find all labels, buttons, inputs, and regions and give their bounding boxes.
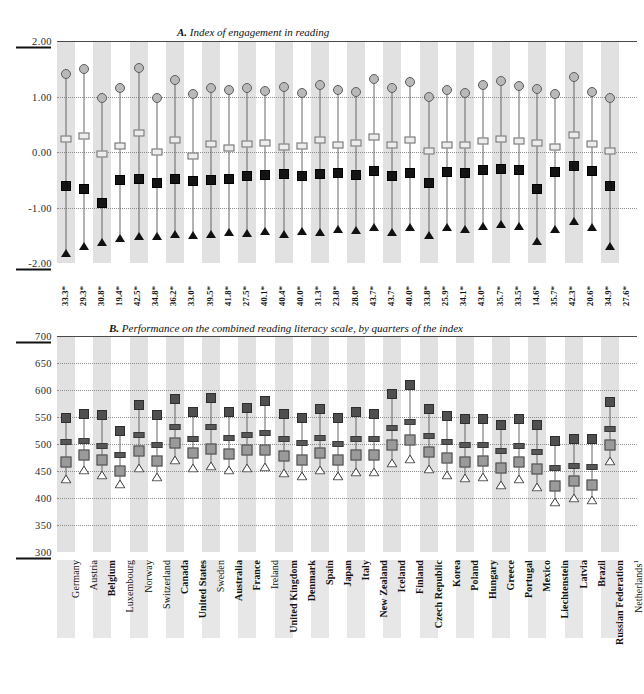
marker-top-quarter (115, 426, 125, 436)
panel-b-y-tick: 600 (14, 385, 52, 396)
marker-top-quarter (242, 403, 252, 413)
marker-second-quarter (351, 450, 362, 461)
marker-bottom-quarter (441, 470, 452, 479)
marker-top-quarter (61, 413, 71, 423)
marker-top-quarter (351, 407, 361, 417)
marker-top-quarter (260, 396, 270, 406)
marker-second-quarter (332, 455, 343, 466)
country-label: Luxembourg (124, 560, 135, 612)
panel-b-title-text: Performance on the combined reading lite… (122, 322, 463, 334)
gridline (57, 417, 637, 418)
marker-bottom-quarter (351, 468, 362, 477)
country-label: New Zealand (378, 560, 389, 618)
marker-top-quarter (405, 380, 415, 390)
marker-bottom-quarter (296, 471, 307, 480)
marker-second-quarter (61, 457, 72, 468)
marker-second-quarter (79, 450, 90, 461)
marker-second-quarter (260, 444, 271, 455)
connector-line (519, 419, 520, 478)
marker-second-quarter (97, 454, 108, 465)
panel-b: B. Performance on the combined reading l… (0, 0, 641, 560)
marker-bottom-quarter (151, 473, 162, 482)
marker-third-quarter (151, 442, 162, 448)
country-label: Belgium (106, 560, 117, 596)
country-label: Italy (360, 560, 371, 581)
marker-bottom-quarter (477, 473, 488, 482)
country-label: Netherlands1 (632, 560, 644, 613)
marker-third-quarter (79, 438, 90, 444)
connector-line (66, 418, 67, 478)
country-label: Greece (505, 560, 516, 590)
country-label: Denmark (306, 560, 317, 601)
marker-bottom-quarter (604, 457, 615, 466)
gridline (57, 525, 637, 526)
marker-top-quarter (206, 393, 216, 403)
marker-third-quarter (477, 442, 488, 448)
marker-top-quarter (224, 407, 234, 417)
marker-bottom-quarter (550, 498, 561, 507)
marker-top-quarter (188, 407, 198, 417)
marker-bottom-quarter (532, 482, 543, 491)
marker-bottom-quarter (133, 463, 144, 472)
marker-top-quarter (550, 436, 560, 446)
country-label: Canada (179, 560, 190, 594)
marker-bottom-quarter (187, 464, 198, 473)
marker-second-quarter (296, 455, 307, 466)
marker-bottom-quarter (387, 458, 398, 467)
marker-second-quarter (224, 448, 235, 459)
marker-second-quarter (278, 450, 289, 461)
marker-top-quarter (152, 410, 162, 420)
marker-third-quarter (568, 463, 579, 469)
panel-b-y-tick: 650 (14, 358, 52, 369)
panel-b-y-tick: 300 (14, 547, 52, 558)
country-label: Russian Federation (614, 560, 625, 645)
marker-bottom-quarter (586, 496, 597, 505)
marker-top-quarter (315, 404, 325, 414)
country-label: Korea (451, 560, 462, 587)
country-label: Austria (88, 560, 99, 590)
marker-second-quarter (423, 446, 434, 457)
connector-line (555, 441, 556, 502)
marker-second-quarter (550, 481, 561, 492)
connector-line (374, 414, 375, 472)
country-label: Portugal (523, 560, 534, 598)
marker-third-quarter (550, 465, 561, 471)
marker-third-quarter (169, 424, 180, 430)
marker-bottom-quarter (224, 466, 235, 475)
marker-third-quarter (441, 439, 452, 445)
marker-second-quarter (604, 440, 615, 451)
marker-top-quarter (170, 394, 180, 404)
panel-b-y-tick: 350 (14, 520, 52, 531)
marker-third-quarter (97, 443, 108, 449)
marker-top-quarter (496, 420, 506, 430)
marker-third-quarter (532, 449, 543, 455)
country-label: Brazil (596, 560, 607, 587)
marker-third-quarter (405, 419, 416, 425)
country-label: United Kingdom (288, 560, 299, 633)
marker-bottom-quarter (97, 471, 108, 480)
marker-bottom-quarter (314, 465, 325, 474)
country-label: Spain (324, 560, 335, 585)
marker-top-quarter (134, 400, 144, 410)
marker-bottom-quarter (79, 466, 90, 475)
connector-line (337, 418, 338, 476)
country-axis-labels: GermanyAustriaBelgiumLuxembourgNorwaySwi… (57, 560, 637, 694)
marker-bottom-quarter (115, 479, 126, 488)
marker-third-quarter (604, 426, 615, 432)
marker-bottom-quarter (423, 464, 434, 473)
marker-top-quarter (424, 404, 434, 414)
marker-second-quarter (514, 457, 525, 468)
marker-top-quarter (297, 413, 307, 423)
marker-bottom-quarter (242, 463, 253, 472)
marker-bottom-quarter (496, 481, 507, 490)
marker-second-quarter (405, 435, 416, 446)
country-label: Poland (469, 560, 480, 591)
panel-b-y-tick: 450 (14, 466, 52, 477)
marker-bottom-quarter (61, 474, 72, 483)
marker-bottom-quarter (332, 472, 343, 481)
marker-bottom-quarter (405, 454, 416, 463)
marker-second-quarter (187, 447, 198, 458)
marker-second-quarter (169, 438, 180, 449)
marker-bottom-quarter (459, 474, 470, 483)
